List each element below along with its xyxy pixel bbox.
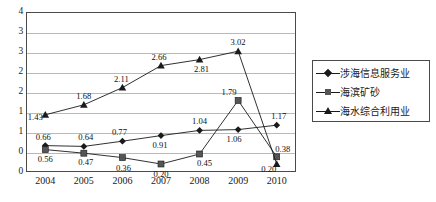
y-axis-tick-label: 0	[18, 147, 23, 157]
data-point-label: 0.38	[275, 145, 290, 154]
data-point-label: 0.47	[78, 158, 93, 167]
x-axis-tick-label: 2008	[190, 176, 210, 186]
data-point-marker	[119, 84, 127, 91]
y-axis-tick-label: 3	[18, 47, 23, 57]
data-point-marker	[158, 161, 164, 167]
data-point-marker	[197, 151, 203, 157]
x-axis-tick-label: 2010	[267, 176, 287, 186]
data-point-label: 1.06	[227, 134, 242, 143]
data-point-label: 1.17	[271, 112, 286, 121]
data-point-marker	[273, 122, 280, 129]
legend-square-icon	[316, 87, 340, 99]
data-point-marker	[80, 101, 88, 108]
y-axis: 433221100	[0, 0, 26, 184]
data-point-label: 0.20	[261, 165, 276, 174]
data-point-label: 1.79	[222, 88, 237, 97]
data-point-marker	[80, 143, 87, 150]
legend-item-label: 海水综合利用业	[340, 106, 410, 117]
data-point-marker	[234, 47, 242, 54]
data-point-marker	[119, 138, 126, 145]
x-axis-tick-label: 2009	[228, 176, 248, 186]
data-point-label: 2.11	[114, 74, 129, 83]
y-axis-tick-label: 2	[18, 87, 23, 97]
data-point-label: 1.68	[76, 92, 91, 101]
y-axis-tick-label: 1	[18, 107, 23, 117]
data-point-marker	[119, 155, 125, 161]
x-axis-tick-label: 2004	[35, 176, 55, 186]
x-axis-tick-label: 2006	[112, 176, 132, 186]
x-axis: 2004200520062007200820092010	[26, 174, 296, 192]
legend: 涉海信息服务业海滨矿砂海水综合利用业	[312, 60, 430, 122]
legend-item-label: 涉海信息服务业	[340, 68, 410, 79]
data-point-label: 0.91	[152, 140, 167, 149]
data-point-label: 0.56	[38, 154, 53, 163]
data-point-marker	[158, 132, 165, 139]
line-chart: 433221100 0.660.640.770.911.041.061.170.…	[0, 0, 436, 202]
data-point-marker	[42, 147, 48, 153]
legend-item-label: 海滨矿砂	[340, 87, 380, 98]
y-axis-tick-label: 3	[18, 27, 23, 37]
data-point-label: 0.36	[116, 163, 131, 172]
x-axis-tick-label: 2005	[74, 176, 94, 186]
data-point-marker	[196, 127, 203, 134]
data-point-label: 1.43	[28, 113, 43, 122]
data-point-label: 0.45	[197, 159, 212, 168]
data-point-marker	[81, 150, 87, 156]
data-point-label: 3.02	[231, 38, 246, 47]
y-axis-tick-label: 2	[18, 67, 23, 77]
y-axis-tick-label: 0	[18, 167, 23, 177]
data-point-label: 0.77	[112, 128, 127, 137]
y-axis-tick-label: 4	[18, 7, 23, 17]
legend-diamond-icon	[316, 68, 340, 80]
y-axis-tick-label: 1	[18, 127, 23, 137]
data-point-label: 0.64	[78, 133, 93, 142]
data-point-marker	[235, 97, 241, 103]
data-point-label: 0.66	[36, 132, 51, 141]
data-point-label: 1.04	[192, 117, 207, 126]
legend-item[interactable]: 海滨矿砂	[316, 83, 427, 102]
legend-triangle-icon	[316, 106, 340, 118]
data-point-label: 2.66	[151, 52, 166, 61]
legend-item[interactable]: 涉海信息服务业	[316, 64, 427, 83]
x-axis-tick-label: 2007	[151, 176, 171, 186]
data-point-marker	[235, 126, 242, 133]
data-point-label: 2.81	[194, 64, 209, 73]
legend-item[interactable]: 海水综合利用业	[316, 102, 427, 121]
